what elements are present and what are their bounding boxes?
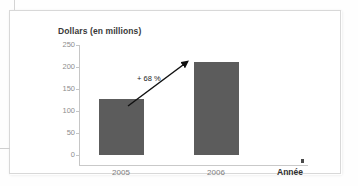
growth-annotation-label: + 68 % (137, 74, 161, 83)
y-axis-tick-mark (76, 89, 79, 90)
y-axis-tick-label: 100 (49, 107, 75, 115)
bar-2006 (194, 62, 239, 155)
y-axis-tick-label: 0 (49, 151, 75, 159)
bar-2005 (99, 99, 144, 155)
y-axis-tick-text: 100 (51, 107, 75, 115)
y-axis-tick-text: 250 (51, 41, 75, 49)
bar-chart: Dollars (en millions) 250200150100500 20… (9, 10, 341, 174)
scanned-chart-page: Dollars (en millions) 250200150100500 20… (0, 0, 358, 186)
x-axis-line (79, 165, 308, 166)
y-axis-tick-label: 200 (49, 63, 75, 71)
x-axis-tick-label: 2006 (196, 168, 236, 178)
y-axis-tick-mark (76, 155, 79, 156)
y-axis-tick-label: 50 (49, 129, 75, 137)
y-axis-tick-text: 150 (51, 85, 75, 93)
scan-artifact-top-line (14, 0, 15, 10)
y-axis-line (79, 45, 80, 165)
x-axis-tick-label: 2005 (101, 168, 141, 178)
y-axis-tick-mark (76, 111, 79, 112)
chart-title: Dollars (en millions) (58, 26, 141, 36)
y-axis-tick-mark (76, 133, 79, 134)
y-axis-tick-mark (76, 45, 79, 46)
y-axis-tick-text: 200 (51, 63, 75, 71)
y-axis-tick-label: 250 (49, 41, 75, 49)
y-axis-tick-text: 50 (51, 129, 75, 137)
y-axis-tick-label: 150 (49, 85, 75, 93)
x-axis-label: Année (277, 167, 303, 177)
y-axis-tick-mark (76, 67, 79, 68)
y-axis-tick-text: 0 (51, 151, 75, 159)
